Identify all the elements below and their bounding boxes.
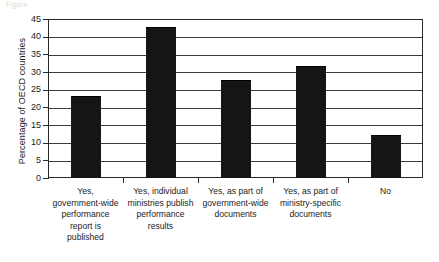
x-tick-mark <box>123 178 124 183</box>
bar-slot <box>71 19 101 178</box>
y-tick-label: 0 <box>4 174 48 183</box>
x-tick-mark <box>198 178 199 183</box>
x-axis-label-line: published <box>41 232 131 244</box>
x-axis-label: No <box>341 186 431 198</box>
bar[interactable] <box>221 80 251 178</box>
y-tick-label: 10 <box>4 138 48 147</box>
bar-slot <box>296 19 326 178</box>
bar-chart: Percentage of OECD countries 05101520253… <box>0 0 439 262</box>
bar[interactable] <box>371 135 401 178</box>
x-axis-label-line: No <box>341 186 431 198</box>
y-tick-label: 20 <box>4 103 48 112</box>
y-tick-label: 35 <box>4 50 48 59</box>
x-axis-label-line: documents <box>266 209 356 221</box>
bar[interactable] <box>146 27 176 178</box>
y-tick-label: 15 <box>4 121 48 130</box>
x-axis-label-line: ministry-specific <box>266 198 356 210</box>
bar[interactable] <box>296 66 326 178</box>
y-tick-label: 45 <box>4 15 48 24</box>
bar[interactable] <box>71 96 101 178</box>
y-tick-label: 40 <box>4 32 48 41</box>
bar-slot <box>221 19 251 178</box>
x-axis-label-line: results <box>116 221 206 233</box>
bars-layer <box>48 19 423 178</box>
x-tick-mark <box>273 178 274 183</box>
bar-slot <box>371 19 401 178</box>
y-tick-label: 25 <box>4 85 48 94</box>
bar-slot <box>146 19 176 178</box>
x-axis-ticks <box>48 178 423 184</box>
y-tick-label: 5 <box>4 156 48 165</box>
x-tick-mark <box>348 178 349 183</box>
x-axis-labels: Yes,government-wideperformancereport isp… <box>48 186 423 256</box>
y-tick-label: 30 <box>4 68 48 77</box>
